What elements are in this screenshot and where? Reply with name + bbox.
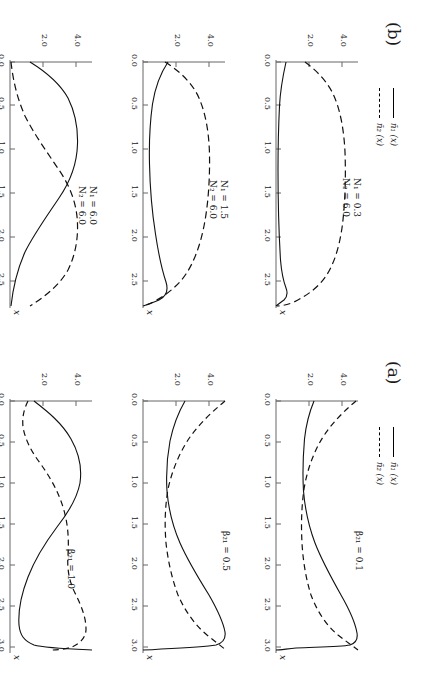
subplot-a-2-annotation: β₂₁ = 0.5 (220, 531, 231, 571)
subplot-a-2: x 0.0 0.5 1.0 1.5 2.0 2.5 3.0 2.0 4.0 β₂… (137, 399, 233, 661)
x-axis-label: x (145, 310, 155, 315)
subplot-a-3: x 0.0 0.5 1.0 1.5 2.0 2.5 3.0 2.0 4.0 β₂… (4, 399, 100, 661)
x-axis-label: x (278, 310, 288, 315)
curve-n1-solid (276, 401, 357, 650)
panel-a-label: (a) (384, 361, 404, 384)
panel-a-legend: ñ₁ (x) ñ₂ (x) (372, 427, 400, 485)
x-tick-4: 2.0 (263, 229, 272, 242)
y-axis-ticks (309, 62, 342, 67)
y-tick-2: 2.0 (173, 34, 182, 47)
x-tick-5: 2.5 (263, 273, 272, 286)
x-tick-1: 0.5 (0, 97, 6, 110)
x-tick-5: 2.5 (0, 273, 6, 286)
x-tick-6: 3.0 (130, 639, 139, 652)
legend-entry-n2: ñ₂ (x) (374, 88, 386, 146)
x-tick-0: 0.0 (130, 54, 139, 67)
x-tick-0: 0.0 (0, 393, 6, 406)
x-tick-0: 0.0 (263, 54, 272, 67)
y-axis-ticks (43, 401, 76, 406)
y-tick-4: 4.0 (339, 34, 348, 47)
panel-b-label: (b) (384, 22, 404, 46)
x-tick-2: 1.0 (0, 141, 6, 154)
y-axis-ticks (43, 62, 76, 67)
subplot-a-3-plot (4, 399, 100, 661)
legend-label-n2: ñ₂ (x) (375, 123, 385, 146)
x-tick-2: 1.0 (263, 475, 272, 488)
y-axis-ticks (176, 62, 209, 67)
x-axis-ticks (276, 401, 281, 647)
x-tick-3: 1.5 (263, 185, 272, 198)
panel-b-legend: ñ₁ (x) ñ₂ (x) (372, 88, 400, 146)
x-tick-5: 2.5 (0, 598, 6, 611)
legend-key-dashed-icon (380, 88, 381, 118)
x-tick-5: 2.5 (263, 598, 272, 611)
curve-n2-dashed (23, 401, 86, 650)
panel-b: (b) ñ₁ (x) ñ₂ (x) (0, 0, 426, 341)
y-tick-4: 4.0 (73, 373, 82, 386)
x-tick-0: 0.0 (130, 393, 139, 406)
x-tick-2: 1.0 (130, 141, 139, 154)
curve-n2-dashed (277, 62, 345, 306)
y-tick-4: 4.0 (206, 373, 215, 386)
y-tick-4: 4.0 (339, 373, 348, 386)
x-tick-2: 1.0 (130, 475, 139, 488)
panel-a: (a) ñ₁ (x) ñ₂ (x) (0, 341, 426, 682)
subplot-a-2-plot (137, 399, 233, 661)
x-tick-0: 0.0 (263, 393, 272, 406)
y-tick-2: 2.0 (40, 34, 49, 47)
legend-entry-n1: ñ₁ (x) (388, 427, 400, 485)
subplot-a-1-plot (270, 399, 366, 661)
x-tick-1: 0.5 (263, 434, 272, 447)
subplot-b-2-annotation: N₁ = 1.5 N₂ = 6.0 (207, 180, 230, 219)
x-tick-1: 0.5 (130, 434, 139, 447)
y-tick-4: 4.0 (206, 34, 215, 47)
subplot-b-3: x 0.0 0.5 1.0 1.5 2.0 2.5 2.0 4.0 N₁ = 6… (4, 60, 100, 315)
subplot-a-3-annotation: β₂₁ = 1.0 (65, 549, 76, 589)
curve-n1-solid (276, 62, 287, 306)
x-tick-4: 2.0 (130, 229, 139, 242)
x-tick-3: 1.5 (263, 516, 272, 529)
x-axis-ticks (143, 62, 148, 281)
subplot-b-3-annotation: N₁ = 6.0 N₂ = 6.0 (76, 186, 99, 225)
subplot-b-1: x 0.0 0.5 1.0 1.5 2.0 2.5 2.0 4.0 N₁ = 0… (270, 60, 366, 315)
curve-n2-dashed (11, 62, 78, 306)
x-tick-1: 0.5 (263, 97, 272, 110)
x-tick-2: 1.0 (263, 141, 272, 154)
x-tick-3: 1.5 (0, 185, 6, 198)
legend-label-n2: ñ₂ (x) (375, 462, 385, 485)
legend-key-solid-icon (394, 88, 395, 118)
x-tick-5: 2.5 (130, 273, 139, 286)
figure-rotated-content: (b) ñ₁ (x) ñ₂ (x) (0, 0, 426, 682)
curve-n1-solid (19, 401, 92, 650)
subplot-b-1-annotation: N₁ = 0.3 N₂ = 6.0 (340, 178, 363, 217)
x-tick-1: 0.5 (0, 434, 6, 447)
x-tick-6: 3.0 (0, 639, 6, 652)
subplot-a-1-annotation: β₂₁ = 0.1 (353, 531, 364, 571)
x-tick-6: 3.0 (263, 639, 272, 652)
curve-n2-dashed (302, 401, 358, 650)
legend-label-n1: ñ₁ (x) (389, 462, 399, 485)
x-tick-5: 2.5 (130, 598, 139, 611)
legend-entry-n2: ñ₂ (x) (374, 427, 386, 485)
subplot-a-1: x 0.0 0.5 1.0 1.5 2.0 2.5 3.0 2.0 4.0 β₂… (270, 399, 366, 661)
x-tick-2: 1.0 (0, 475, 6, 488)
subplot-b-2: x 0.0 0.5 1.0 1.5 2.0 2.5 2.0 4.0 N₁ = 1… (137, 60, 233, 315)
x-axis-ticks (10, 62, 15, 281)
x-axis-label: x (12, 655, 22, 660)
legend-key-dashed-icon (380, 427, 381, 457)
x-tick-0: 0.0 (0, 54, 6, 67)
x-axis-label: x (145, 655, 155, 660)
curve-n1-solid (143, 401, 225, 650)
x-axis-label: x (12, 310, 22, 315)
legend-label-n1: ñ₁ (x) (389, 123, 399, 146)
x-tick-3: 1.5 (130, 185, 139, 198)
x-tick-1: 0.5 (130, 97, 139, 110)
y-axis-ticks (176, 401, 209, 406)
curve-n2-dashed (165, 401, 226, 650)
y-tick-2: 2.0 (40, 373, 49, 386)
x-tick-3: 1.5 (0, 516, 6, 529)
x-axis-label: x (278, 655, 288, 660)
y-tick-4: 4.0 (73, 34, 82, 47)
x-tick-4: 2.0 (0, 557, 6, 570)
x-tick-3: 1.5 (130, 516, 139, 529)
